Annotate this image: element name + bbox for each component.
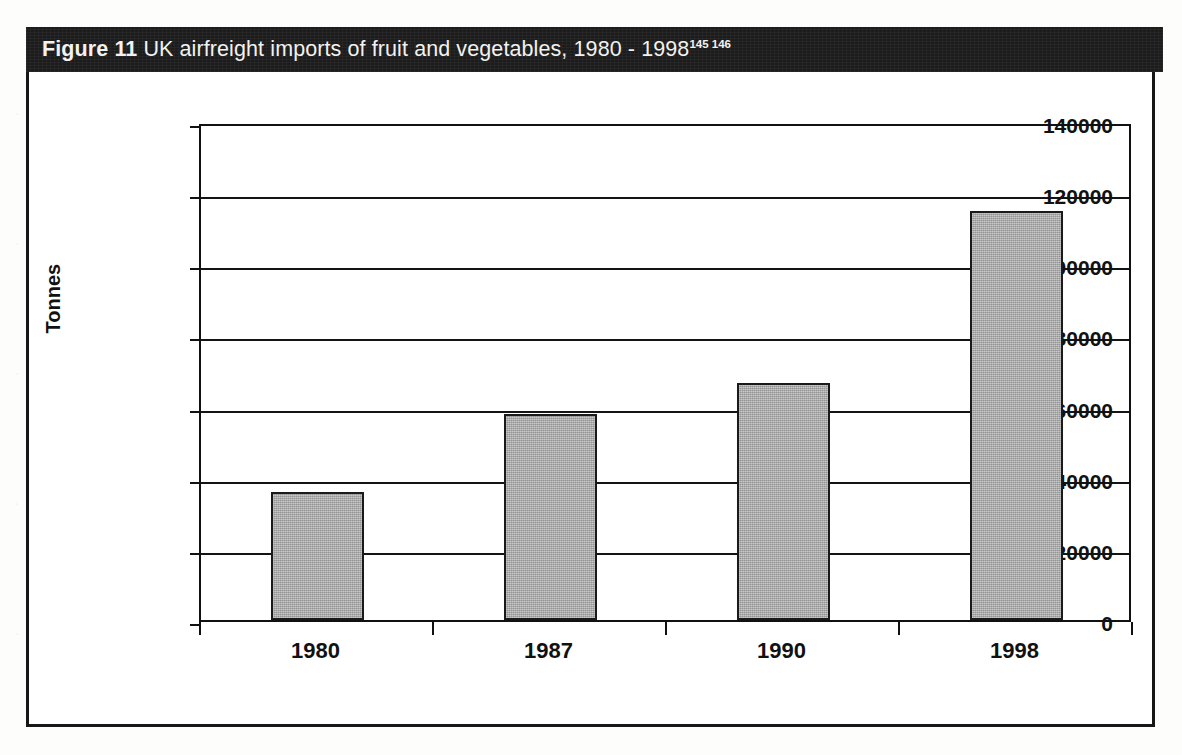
y-axis-tick [190,339,201,341]
y-axis-tick-label: 40000 [1055,470,1113,494]
x-axis-tick [898,622,900,635]
x-axis-tick [1131,622,1133,635]
figure-caption: UK airfreight imports of fruit and veget… [143,37,689,61]
bar [504,414,597,620]
figure-number: 11 [114,37,137,61]
figure-title-banner: Figure 11 UK airfreight imports of fruit… [26,27,1163,72]
y-axis-tick [190,126,201,128]
y-axis-tick-label: 60000 [1055,399,1113,423]
figure-title: Figure 11 UK airfreight imports of fruit… [42,37,731,62]
x-axis-category-label: 1987 [432,638,665,672]
y-axis-title: Tonnes [42,294,65,334]
x-axis-tick [432,622,434,635]
x-axis-ticks [199,622,1131,636]
x-axis-tick [665,622,667,635]
y-axis-tick-label: 120000 [1043,185,1113,209]
y-axis-tick [190,197,201,199]
x-axis-labels: 1980198719901998 [199,638,1131,672]
figure-label: Figure [42,37,108,61]
bar-chart: Tonnes 140000120000100000800006000040000… [29,72,1158,727]
y-axis-tick [190,411,201,413]
y-axis-tick-label: 140000 [1043,114,1113,138]
x-axis-category-label: 1998 [898,638,1131,672]
y-axis-tick [190,482,201,484]
figure-frame: Tonnes 140000120000100000800006000040000… [26,72,1155,727]
bar [970,211,1063,620]
x-axis-category-label: 1990 [665,638,898,672]
bar [737,383,830,620]
y-axis-tick [190,553,201,555]
bar [271,492,364,620]
x-axis-category-label: 1980 [199,638,432,672]
y-axis-tick-label: 20000 [1055,541,1113,565]
x-axis-tick [199,622,201,635]
figure-footnote-refs: 145 146 [689,38,731,50]
y-axis-tick-label: 80000 [1055,327,1113,351]
plot-area: 140000120000100000800006000040000200000 [199,124,1131,622]
y-axis-tick [190,268,201,270]
gridline [201,197,1129,199]
